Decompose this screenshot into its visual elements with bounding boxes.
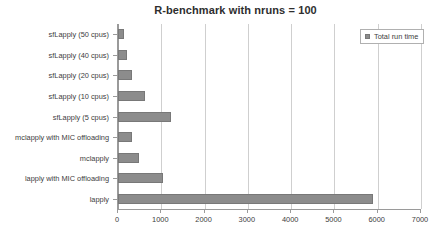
y-axis-tick-label: mclapply [80,153,109,162]
y-axis-tick-mark [113,178,117,179]
y-axis-tick-label: sfLapply (40 cpus) [49,50,109,59]
y-axis-tick-label: mclapply with MIC offloading [15,133,109,142]
x-axis-tick-mark [204,209,205,213]
plot-area [117,24,421,209]
y-axis-tick-mark [113,137,117,138]
legend-label: Total run time [374,32,418,41]
bar [118,132,132,142]
bar [118,29,124,39]
y-axis-tick-label: sfLapply (20 cpus) [49,71,109,80]
y-axis-tick-label: sfLapply (50 cpus) [49,30,109,39]
gridline-5000 [334,24,335,209]
x-axis-tick-label: 6000 [368,215,384,224]
y-axis-tick-mark [113,34,117,35]
chart-container: R-benchmark with nruns = 100 sfLapply (5… [0,0,447,241]
x-axis-tick-mark [290,209,291,213]
y-axis-tick-mark [113,117,117,118]
y-axis-tick-mark [113,199,117,200]
x-axis-tick-mark [117,209,118,213]
x-axis-tick-label: 1000 [152,215,168,224]
gridline-6000 [378,24,379,209]
y-axis-tick-label: lapply [90,194,109,203]
y-axis-tick-label: sfLapply (10 cpus) [49,91,109,100]
bar [118,70,132,80]
x-axis-tick-mark [333,209,334,213]
y-axis-tick-label: lapply with MIC offloading [25,174,109,183]
gridline-7000 [421,24,422,209]
bar [118,173,163,183]
x-axis-tick-mark [377,209,378,213]
gridline-3000 [248,24,249,209]
y-axis-tick-mark [113,55,117,56]
x-axis-tick-mark [420,209,421,213]
x-axis-tick-mark [247,209,248,213]
x-axis-tick-label: 3000 [239,215,255,224]
x-axis-tick-label: 5000 [325,215,341,224]
y-axis-tick-mark [113,158,117,159]
y-axis-tick-mark [113,75,117,76]
x-axis-tick-mark [160,209,161,213]
x-axis-tick-label: 7000 [412,215,428,224]
gridline-2000 [205,24,206,209]
bar [118,91,145,101]
x-axis-tick-label: 2000 [195,215,211,224]
chart-legend[interactable]: Total run time [360,29,424,44]
x-axis-tick-label: 4000 [282,215,298,224]
y-axis-category-labels: sfLapply (50 cpus)sfLapply (40 cpus)sfLa… [0,24,113,209]
gridline-4000 [291,24,292,209]
chart-title: R-benchmark with nruns = 100 [0,4,447,16]
y-axis-tick-label: sfLapply (5 cpus) [53,112,109,121]
y-axis-tick-mark [113,96,117,97]
legend-swatch-icon [365,34,370,39]
x-axis-tick-label: 0 [115,215,119,224]
bar [118,50,127,60]
bar [118,194,373,204]
x-axis-line [117,209,421,210]
bar [118,112,171,122]
bar [118,153,139,163]
